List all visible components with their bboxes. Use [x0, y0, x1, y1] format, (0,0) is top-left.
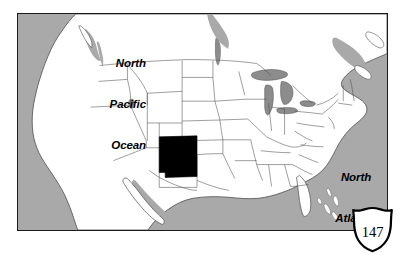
- highlighted-state-new-mexico: [159, 136, 197, 178]
- label-gulf-of-mexico: Gulf of Mexico: [222, 210, 300, 231]
- label-line: Ocean: [54, 139, 146, 153]
- interstate-shield-badge: 147: [349, 206, 396, 253]
- lake-ontario: [300, 101, 315, 107]
- label-line: North: [54, 57, 146, 71]
- label-north-pacific-ocean: North Pacific Ocean: [54, 30, 146, 179]
- interstate-shield-icon: [349, 206, 396, 253]
- label-line: Pacific: [54, 98, 146, 112]
- map-page: North Pacific Ocean North Atlantic Ocean…: [0, 0, 405, 255]
- label-line: North: [318, 171, 388, 185]
- map-frame: North Pacific Ocean North Atlantic Ocean…: [17, 13, 388, 231]
